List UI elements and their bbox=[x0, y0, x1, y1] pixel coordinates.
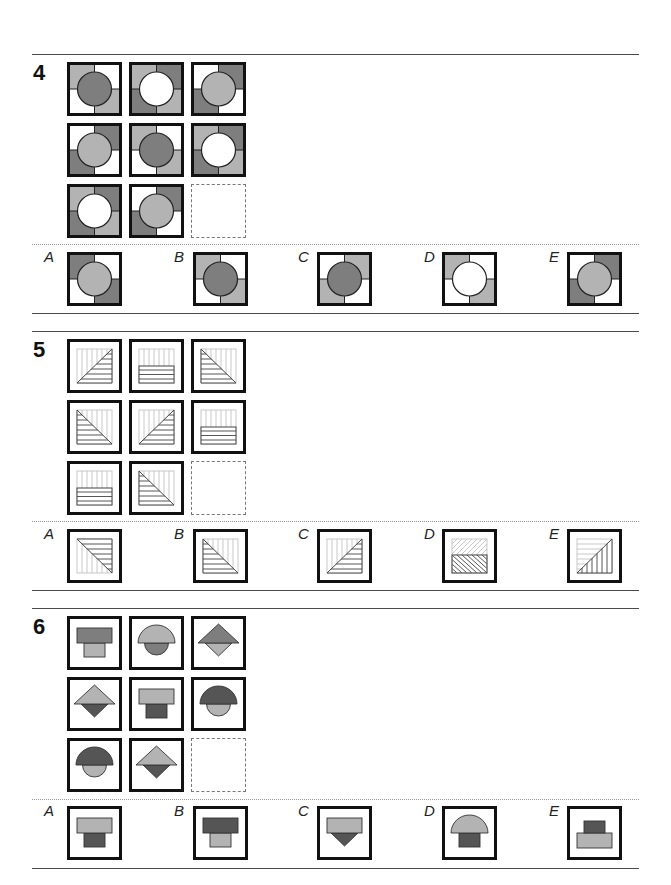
section-rule-top-q5 bbox=[32, 331, 639, 332]
answer-option-e[interactable] bbox=[567, 529, 622, 583]
answer-option-c[interactable] bbox=[317, 806, 372, 860]
matrix-cell bbox=[129, 123, 184, 177]
question-number: 5 bbox=[33, 339, 45, 361]
option-label: A bbox=[44, 249, 54, 264]
option-label: B bbox=[174, 249, 184, 264]
section-rule-bottom-q5 bbox=[32, 590, 639, 591]
section-rule-bottom-q4 bbox=[32, 313, 639, 314]
matrix-cell bbox=[129, 461, 184, 515]
matrix-cell bbox=[129, 677, 184, 731]
answer-option-d[interactable] bbox=[442, 529, 497, 583]
matrix-cell bbox=[129, 400, 184, 454]
answer-option-a[interactable] bbox=[67, 252, 122, 306]
missing-answer-cell bbox=[191, 738, 246, 792]
matrix-cell bbox=[129, 62, 184, 116]
matrix-cell bbox=[67, 400, 122, 454]
matrix-cell bbox=[67, 616, 122, 670]
answer-option-a[interactable] bbox=[67, 529, 122, 583]
option-label: C bbox=[298, 526, 309, 541]
matrix-cell bbox=[129, 184, 184, 238]
matrix-cell bbox=[129, 616, 184, 670]
answer-option-c[interactable] bbox=[317, 529, 372, 583]
matrix-cell bbox=[191, 62, 246, 116]
answer-option-b[interactable] bbox=[193, 529, 248, 583]
option-label: E bbox=[549, 526, 559, 541]
option-label: E bbox=[549, 803, 559, 818]
option-label: A bbox=[44, 803, 54, 818]
answer-option-d[interactable] bbox=[442, 252, 497, 306]
options-divider bbox=[32, 244, 639, 245]
matrix-cell bbox=[67, 184, 122, 238]
matrix-cell bbox=[67, 461, 122, 515]
section-rule-top-q4 bbox=[32, 54, 639, 55]
matrix-cell bbox=[67, 62, 122, 116]
answer-option-b[interactable] bbox=[193, 806, 248, 860]
matrix-cell bbox=[67, 677, 122, 731]
option-label: D bbox=[424, 249, 435, 264]
matrix-cell bbox=[67, 339, 122, 393]
matrix-cell bbox=[129, 339, 184, 393]
matrix-cell bbox=[67, 738, 122, 792]
question-number: 4 bbox=[33, 62, 45, 84]
option-label: B bbox=[174, 526, 184, 541]
answer-option-b[interactable] bbox=[193, 252, 248, 306]
options-divider bbox=[32, 799, 639, 800]
answer-option-e[interactable] bbox=[567, 252, 622, 306]
matrix-cell bbox=[67, 123, 122, 177]
matrix-cell bbox=[191, 616, 246, 670]
matrix-cell bbox=[191, 123, 246, 177]
matrix-cell bbox=[191, 677, 246, 731]
section-rule-top-q6 bbox=[32, 608, 639, 609]
answer-option-e[interactable] bbox=[567, 806, 622, 860]
option-label: C bbox=[298, 249, 309, 264]
matrix-cell bbox=[191, 400, 246, 454]
matrix-cell bbox=[191, 339, 246, 393]
option-label: B bbox=[174, 803, 184, 818]
option-label: C bbox=[298, 803, 309, 818]
option-label: A bbox=[44, 526, 54, 541]
answer-option-a[interactable] bbox=[67, 806, 122, 860]
matrix-cell bbox=[129, 738, 184, 792]
option-label: D bbox=[424, 526, 435, 541]
options-divider bbox=[32, 521, 639, 522]
answer-option-c[interactable] bbox=[317, 252, 372, 306]
option-label: D bbox=[424, 803, 435, 818]
option-label: E bbox=[549, 249, 559, 264]
missing-answer-cell bbox=[191, 461, 246, 515]
section-rule-bottom-q6 bbox=[32, 868, 639, 869]
question-number: 6 bbox=[33, 616, 45, 638]
answer-option-d[interactable] bbox=[442, 806, 497, 860]
missing-answer-cell bbox=[191, 184, 246, 238]
